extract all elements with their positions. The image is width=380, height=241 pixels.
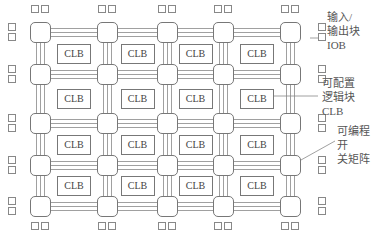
switch-matrix — [97, 113, 118, 134]
switch-matrix — [97, 64, 118, 85]
switch-label-line2: 关矩阵 — [337, 152, 380, 166]
iob-bottom — [108, 222, 116, 230]
iob-bottom — [98, 222, 106, 230]
iob-left — [8, 114, 16, 122]
clb-block: CLB — [57, 135, 91, 155]
iob-top — [281, 5, 289, 13]
clb-label-line2: 逻辑块 — [322, 90, 355, 104]
iob-right — [318, 124, 326, 132]
iob-right — [318, 65, 326, 73]
iob-left — [8, 197, 16, 205]
iob-left — [8, 207, 16, 215]
clb-block: CLB — [121, 89, 155, 109]
iob-label: 输入/ 输出块 IOB — [327, 10, 360, 52]
iob-top — [214, 5, 222, 13]
switch-matrix — [280, 196, 301, 217]
switch-matrix — [280, 113, 301, 134]
clb-block: CLB — [57, 176, 91, 196]
switch-matrix — [97, 22, 118, 43]
switch-matrix — [213, 22, 234, 43]
clb-label: 可配置 逻辑块 CLB — [322, 76, 355, 118]
clb-block: CLB — [57, 89, 91, 109]
iob-left — [8, 33, 16, 41]
switch-matrix — [280, 22, 301, 43]
iob-left — [8, 75, 16, 83]
iob-left — [8, 124, 16, 132]
switch-matrix — [157, 113, 178, 134]
iob-right — [318, 156, 326, 164]
switch-matrix — [157, 22, 178, 43]
switch-matrix — [30, 155, 51, 176]
iob-top — [31, 5, 39, 13]
switch-label-line1: 可编程开 — [337, 124, 380, 152]
iob-right — [318, 23, 326, 31]
clb-label-line1: 可配置 — [322, 76, 355, 90]
clb-block: CLB — [179, 176, 213, 196]
switch-matrix — [97, 155, 118, 176]
iob-bottom — [41, 222, 49, 230]
switch-matrix — [97, 196, 118, 217]
switch-matrix — [280, 64, 301, 85]
iob-top — [98, 5, 106, 13]
iob-bottom — [214, 222, 222, 230]
clb-block: CLB — [240, 44, 274, 64]
iob-left — [8, 23, 16, 31]
clb-block: CLB — [121, 135, 155, 155]
iob-top — [168, 5, 176, 13]
switch-matrix — [213, 155, 234, 176]
iob-bottom — [224, 222, 232, 230]
iob-bottom — [291, 222, 299, 230]
switch-matrix — [280, 155, 301, 176]
switch-matrix — [30, 113, 51, 134]
iob-right — [318, 197, 326, 205]
switch-matrix — [213, 196, 234, 217]
clb-block: CLB — [179, 135, 213, 155]
clb-block: CLB — [179, 89, 213, 109]
clb-block: CLB — [121, 176, 155, 196]
iob-left — [8, 156, 16, 164]
switch-matrix-label: 可编程开 关矩阵 — [337, 124, 380, 166]
iob-top — [41, 5, 49, 13]
iob-bottom — [168, 222, 176, 230]
iob-left — [8, 65, 16, 73]
iob-top — [224, 5, 232, 13]
iob-label-line2: 输出块 — [327, 24, 360, 38]
clb-block: CLB — [240, 89, 274, 109]
iob-bottom — [158, 222, 166, 230]
switch-matrix — [213, 113, 234, 134]
iob-right — [318, 166, 326, 174]
clb-block: CLB — [240, 135, 274, 155]
switch-matrix — [30, 64, 51, 85]
iob-bottom — [31, 222, 39, 230]
iob-top — [108, 5, 116, 13]
switch-matrix — [30, 22, 51, 43]
iob-label-line1: 输入/ — [327, 10, 360, 24]
clb-block: CLB — [57, 44, 91, 64]
switch-matrix — [157, 64, 178, 85]
switch-matrix — [30, 196, 51, 217]
clb-block: CLB — [179, 44, 213, 64]
iob-left — [8, 166, 16, 174]
clb-block: CLB — [121, 44, 155, 64]
iob-label-line3: IOB — [327, 38, 360, 52]
iob-top — [158, 5, 166, 13]
switch-matrix — [157, 155, 178, 176]
switch-matrix — [157, 196, 178, 217]
iob-right — [318, 207, 326, 215]
clb-block: CLB — [240, 176, 274, 196]
iob-top — [291, 5, 299, 13]
iob-right — [318, 33, 326, 41]
clb-label-line3: CLB — [322, 104, 355, 118]
switch-matrix — [213, 64, 234, 85]
iob-bottom — [281, 222, 289, 230]
